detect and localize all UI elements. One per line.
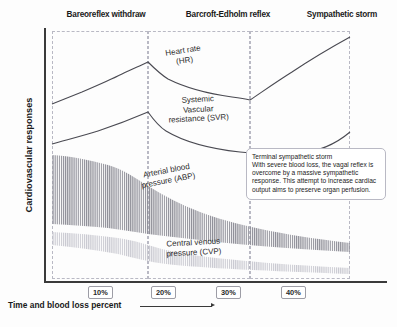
callout-body: With severe blood loss, the vagal reflex… xyxy=(252,161,380,194)
cvp-label: Central venous pressure (CVP) xyxy=(166,237,222,259)
x-tick-40: 40% xyxy=(281,286,306,299)
terminal-sympathetic-storm-callout: Terminal sympathetic storm With severe b… xyxy=(246,148,386,200)
x-tick-20: 20% xyxy=(151,286,176,299)
diagram-canvas: Bareoreflex withdraw Barcroft-Edholm ref… xyxy=(0,0,397,327)
x-tick-10: 10% xyxy=(88,286,113,299)
svr-label: Systemic Vascular resistance (SVR) xyxy=(167,93,229,125)
x-tick-30: 30% xyxy=(216,286,241,299)
callout-title: Terminal sympathetic storm xyxy=(252,153,380,160)
